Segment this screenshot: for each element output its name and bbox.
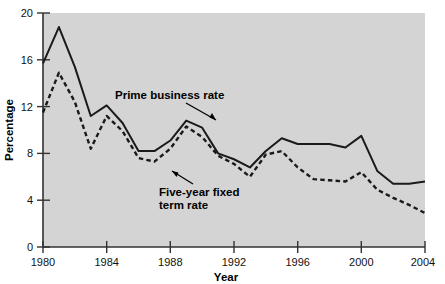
y-tick-label-4: 4 <box>27 194 33 206</box>
y-tick-label-20: 20 <box>21 7 33 19</box>
annotation-fixed-term-rate-line1: Five-year fixed <box>159 186 240 198</box>
y-tick-label-12: 12 <box>21 101 33 113</box>
annotation-fixed-term-rate-line2: term rate <box>159 199 208 211</box>
line-chart: 20 16 12 8 4 0 1980 1984 1988 1992 1996 … <box>0 0 445 284</box>
x-tick-label-1980: 1980 <box>31 256 55 268</box>
x-axis-title: Year <box>214 271 239 283</box>
x-tick-label-2000: 2000 <box>349 256 373 268</box>
annotation-prime-business-rate: Prime business rate <box>115 89 224 101</box>
x-tick-label-2004: 2004 <box>411 256 435 268</box>
x-tick-label-1992: 1992 <box>222 256 246 268</box>
x-tick-label-1984: 1984 <box>94 256 118 268</box>
y-tick-label-8: 8 <box>27 147 33 159</box>
x-tick-label-1996: 1996 <box>285 256 309 268</box>
y-axis-title: Percentage <box>3 99 15 161</box>
y-tick-label-16: 16 <box>21 54 33 66</box>
x-tick-label-1988: 1988 <box>158 256 182 268</box>
y-tick-label-0: 0 <box>27 241 33 253</box>
chart-figure: 20 16 12 8 4 0 1980 1984 1988 1992 1996 … <box>0 0 445 284</box>
